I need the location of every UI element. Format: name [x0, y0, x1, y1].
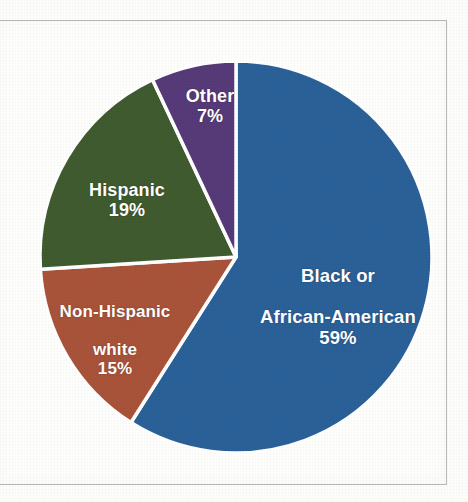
chart-page: Black or African-American 59% Hispanic 1…	[0, 0, 468, 502]
pie-chart-svg	[0, 0, 468, 502]
pie-chart: Black or African-American 59% Hispanic 1…	[0, 0, 468, 502]
pie-slices	[40, 61, 432, 453]
